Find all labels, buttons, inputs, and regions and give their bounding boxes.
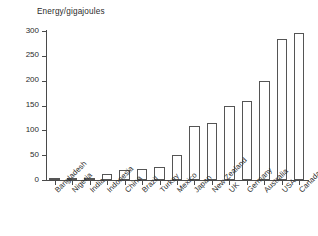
bar: [207, 123, 217, 180]
bar: [242, 101, 252, 180]
y-tick-label: 0: [35, 175, 39, 184]
y-tick-label: 100: [26, 125, 39, 134]
bar: [277, 39, 287, 180]
bar: [49, 178, 59, 180]
bar-chart: Energy/gigajoules 050100150200250300 Ban…: [0, 0, 318, 236]
y-tick-label: 150: [26, 100, 39, 109]
y-tick-label: 50: [30, 150, 39, 159]
y-tick-label: 200: [26, 75, 39, 84]
x-axis-labels: BangladeshNigeriaIndiaIndonesiaChinaBraz…: [0, 0, 318, 56]
